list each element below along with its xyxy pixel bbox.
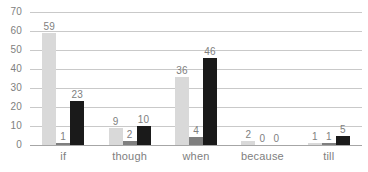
bar-group-bars: 9210 bbox=[96, 12, 162, 145]
y-axis-tick-label: 50 bbox=[0, 45, 22, 55]
bar-group: 9210 bbox=[96, 12, 162, 145]
bar-data-label: 59 bbox=[43, 22, 55, 32]
bar-slot: 9 bbox=[109, 12, 123, 145]
bar[interactable] bbox=[70, 101, 84, 145]
bar[interactable] bbox=[322, 143, 336, 145]
bar-slot: 2 bbox=[241, 12, 255, 145]
y-axis-tick-label: 0 bbox=[0, 140, 22, 150]
bar-slot: 0 bbox=[269, 12, 283, 145]
bar-slot: 1 bbox=[308, 12, 322, 145]
bar[interactable] bbox=[308, 143, 322, 145]
bar[interactable] bbox=[56, 143, 70, 145]
bar-data-label: 23 bbox=[71, 90, 83, 100]
y-axis-tick-label: 60 bbox=[0, 26, 22, 36]
bar-group: 115 bbox=[296, 12, 362, 145]
bar-data-label: 2 bbox=[127, 130, 133, 140]
bar-slot: 1 bbox=[322, 12, 336, 145]
bar-slot: 4 bbox=[189, 12, 203, 145]
axis-baseline bbox=[30, 145, 362, 146]
bar[interactable] bbox=[137, 126, 151, 145]
bar-group: 200 bbox=[229, 12, 295, 145]
x-axis-category-label: when bbox=[163, 150, 229, 163]
bar-slot: 59 bbox=[42, 12, 56, 145]
bar-slot: 0 bbox=[255, 12, 269, 145]
bar-data-label: 2 bbox=[246, 130, 252, 140]
bar-slot: 36 bbox=[175, 12, 189, 145]
bar-slot: 5 bbox=[336, 12, 350, 145]
bar-slot: 46 bbox=[203, 12, 217, 145]
y-axis-tick-label: 70 bbox=[0, 7, 22, 17]
bar-data-label: 5 bbox=[340, 125, 346, 135]
x-axis-category-label: because bbox=[229, 150, 295, 163]
bar-chart: 010203040506070 59123921036446200115 ift… bbox=[0, 0, 368, 172]
bar[interactable] bbox=[123, 141, 137, 145]
y-axis-tick-label: 10 bbox=[0, 121, 22, 131]
bar-slot: 2 bbox=[123, 12, 137, 145]
bar-data-label: 10 bbox=[138, 115, 150, 125]
x-axis-category-label: though bbox=[96, 150, 162, 163]
bar[interactable] bbox=[42, 33, 56, 145]
bar-data-label: 46 bbox=[204, 47, 216, 57]
bar-data-label: 9 bbox=[113, 117, 119, 127]
x-axis-category-labels: ifthoughwhenbecausetill bbox=[30, 150, 362, 163]
bar-slot: 23 bbox=[70, 12, 84, 145]
x-axis-category-label: if bbox=[30, 150, 96, 163]
bar[interactable] bbox=[189, 137, 203, 145]
y-axis-tick-label: 20 bbox=[0, 102, 22, 112]
bar-group-bars: 115 bbox=[296, 12, 362, 145]
bar-data-label: 0 bbox=[260, 134, 266, 144]
x-axis-category-label: till bbox=[296, 150, 362, 163]
bar-slot: 1 bbox=[56, 12, 70, 145]
bar-data-label: 4 bbox=[193, 126, 199, 136]
bar-group: 59123 bbox=[30, 12, 96, 145]
y-axis-tick-label: 40 bbox=[0, 64, 22, 74]
plot-area: 010203040506070 59123921036446200115 bbox=[30, 12, 362, 145]
bar-slot: 10 bbox=[137, 12, 151, 145]
bar-group-bars: 59123 bbox=[30, 12, 96, 145]
bar-group-bars: 200 bbox=[229, 12, 295, 145]
bar[interactable] bbox=[241, 141, 255, 145]
y-axis-tick-label: 30 bbox=[0, 83, 22, 93]
bar-data-label: 0 bbox=[274, 134, 280, 144]
bar-data-label: 1 bbox=[326, 132, 332, 142]
bar-groups: 59123921036446200115 bbox=[30, 12, 362, 145]
bar[interactable] bbox=[109, 128, 123, 145]
bar[interactable] bbox=[336, 136, 350, 146]
bar-data-label: 1 bbox=[312, 132, 318, 142]
bar-data-label: 1 bbox=[60, 132, 66, 142]
bar-data-label: 36 bbox=[176, 66, 188, 76]
bar-group: 36446 bbox=[163, 12, 229, 145]
bar[interactable] bbox=[203, 58, 217, 145]
bar-group-bars: 36446 bbox=[163, 12, 229, 145]
bar[interactable] bbox=[175, 77, 189, 145]
